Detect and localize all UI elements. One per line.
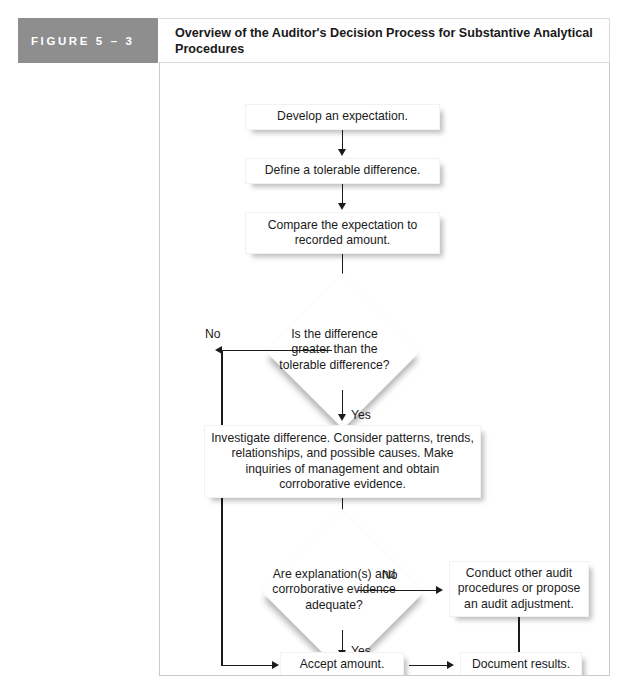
arrowhead-develop-to-tolerable <box>338 149 346 156</box>
figure-label: FIGURE 5 – 3 <box>18 18 158 63</box>
figure-title: Overview of the Auditor's Decision Proce… <box>159 18 610 63</box>
arrowhead-tolerable-to-compare <box>338 203 346 210</box>
decision-explanations-adequate: Are explanation(s) and corroborative evi… <box>285 533 399 647</box>
edge-label-difference-yes: Yes <box>351 408 371 422</box>
connector-develop-to-tolerable <box>342 130 344 151</box>
node-accept-amount-label: Accept amount. <box>300 657 385 673</box>
node-define-tolerable-difference-label: Define a tolerable difference. <box>265 163 421 179</box>
node-compare-expectation-label: Compare the expectation to recorded amou… <box>252 218 433 249</box>
node-conduct-other-procedures-label: Conduct other audit procedures or propos… <box>456 566 582 613</box>
edge-label-difference-no: No <box>205 327 221 341</box>
decision-difference-label: Is the difference greater than the toler… <box>273 327 396 374</box>
connector-accept-to-document <box>409 665 449 667</box>
node-develop-expectation-label: Develop an expectation. <box>277 109 408 125</box>
node-conduct-other-procedures: Conduct other audit procedures or propos… <box>449 561 589 617</box>
node-investigate-difference-label: Investigate difference. Consider pattern… <box>211 431 474 493</box>
decision-difference-greater-than-tolerable: Is the difference greater than the toler… <box>288 296 396 404</box>
figure-container: FIGURE 5 – 3 Overview of the Auditor's D… <box>18 18 610 676</box>
node-develop-expectation: Develop an expectation. <box>245 104 440 130</box>
connector-conduct-to-document <box>518 617 520 657</box>
arrowhead-adequacy-no <box>436 586 443 594</box>
connector-no-return-vertical <box>221 350 223 666</box>
flowchart-canvas: Develop an expectation. Define a tolerab… <box>159 63 610 676</box>
node-document-results-label: Document results. <box>472 657 570 673</box>
node-investigate-difference: Investigate difference. Consider pattern… <box>204 425 481 498</box>
arrowhead-accept-to-document <box>447 661 454 669</box>
node-accept-amount: Accept amount. <box>280 652 404 676</box>
connector-no-return-horizontal <box>221 665 273 667</box>
node-define-tolerable-difference: Define a tolerable difference. <box>245 158 440 184</box>
arrowhead-difference-yes <box>338 414 346 421</box>
decision-adequacy-label: Are explanation(s) and corroborative evi… <box>269 567 399 614</box>
connector-tolerable-to-compare <box>342 184 344 205</box>
node-compare-expectation: Compare the expectation to recorded amou… <box>245 212 440 254</box>
arrowhead-no-return-to-accept <box>272 661 279 669</box>
node-document-results: Document results. <box>460 652 582 676</box>
